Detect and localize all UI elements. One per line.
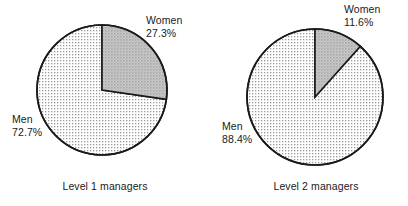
pie-right (247, 29, 383, 165)
pie-right-label-men-percent: 88.4% (222, 133, 252, 146)
pie-right-label-women-percent: 11.6% (344, 16, 381, 29)
pie-right-caption: Level 2 managers (250, 180, 382, 193)
pie-left-label-men-name: Men (12, 113, 33, 125)
pie-left-caption: Level 1 managers (42, 180, 168, 193)
pie-left-label-women-percent: 27.3% (146, 27, 183, 40)
pie-right-label-women: Women 11.6% (344, 3, 381, 28)
pie-right-label-women-name: Women (344, 3, 381, 15)
pie-charts-svg (0, 0, 408, 206)
pie-chart-figure: Women 27.3% Men 72.7% Level 1 managers W… (0, 0, 408, 206)
pie-right-label-men: Men 88.4% (222, 120, 252, 145)
pie-right-label-men-name: Men (222, 120, 243, 132)
pie-left-label-women-name: Women (146, 14, 183, 26)
pie-left-label-men-percent: 72.7% (12, 126, 42, 139)
pie-left-label-men: Men 72.7% (12, 113, 42, 138)
pie-left-label-women: Women 27.3% (146, 14, 183, 39)
pie-left (37, 25, 167, 155)
